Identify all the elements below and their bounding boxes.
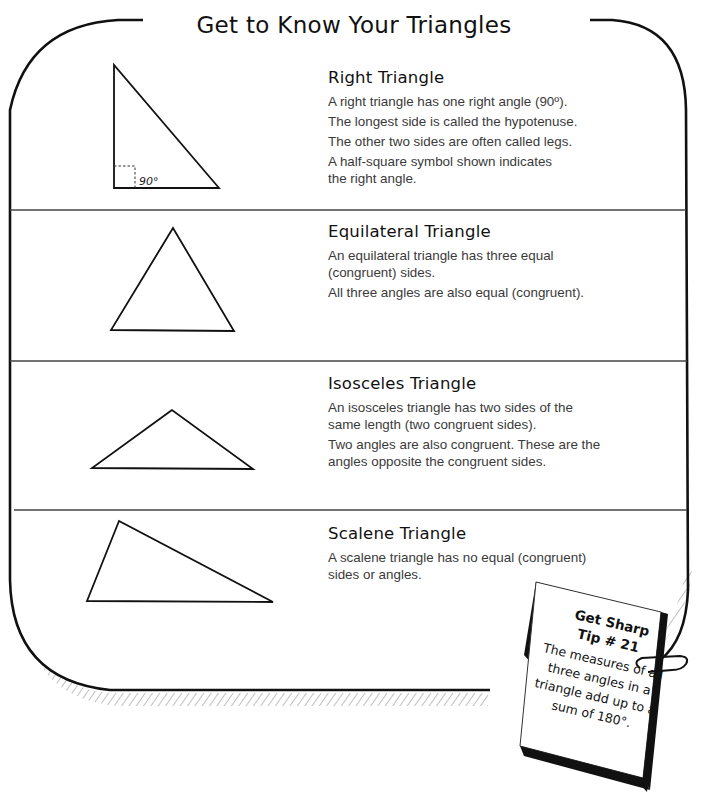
section-line: All three angles are also equal (congrue… [328,284,628,301]
section-line: The other two sides are often called leg… [328,133,628,150]
section-heading: Scalene Triangle [328,524,628,543]
section-line: Two angles are also congruent. These are… [328,436,603,470]
section-line: An isosceles triangle has two sides of t… [328,399,603,433]
section-heading: Right Triangle [328,68,628,87]
equilateral-triangle-icon [111,228,234,331]
right-angle-label: 90° [139,175,159,188]
section-line: A scalene triangle has no equal (congrue… [328,549,608,583]
section-isosceles-triangle: Isosceles Triangle An isosceles triangle… [328,374,628,473]
right-triangle-icon [114,65,219,188]
page-title: Get to Know Your Triangles [0,12,708,38]
section-right-triangle: Right Triangle A right triangle has one … [328,68,628,190]
section-line: A half-square symbol shown indicates the… [328,153,568,187]
scalene-triangle-icon [87,521,273,602]
isosceles-triangle-icon [92,410,253,469]
section-line: A right triangle has one right angle (90… [328,93,628,110]
section-heading: Isosceles Triangle [328,374,628,393]
section-heading: Equilateral Triangle [328,222,628,241]
section-equilateral-triangle: Equilateral Triangle An equilateral tria… [328,222,628,304]
section-scalene-triangle: Scalene Triangle A scalene triangle has … [328,524,628,586]
section-line: An equilateral triangle has three equal … [328,247,558,281]
worksheet-page: 90° Get to Know Your Triangles Right Tri… [0,0,708,809]
section-line: The longest side is called the hypotenus… [328,113,628,130]
